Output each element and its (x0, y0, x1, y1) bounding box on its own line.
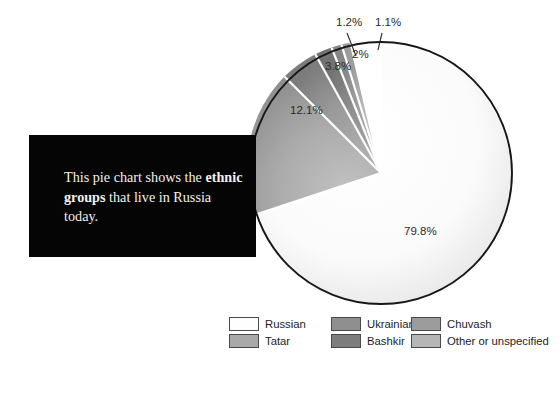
legend-label-chuvash: Chuvash (447, 318, 492, 330)
pie-label-russian: 79.8% (404, 225, 437, 237)
legend-item-tatar: Tatar (229, 334, 331, 348)
legend-item-other: Other or unspecified (411, 334, 539, 348)
caption-box: This pie chart shows the ethnic groups t… (29, 135, 256, 257)
legend-label-ukrainian: Ukrainian (367, 318, 415, 330)
caption-line-1: This pie chart shows the (64, 169, 202, 185)
legend-item-ukrainian: Ukrainian (331, 317, 411, 331)
pie-label-tatar: 12.1% (290, 104, 323, 116)
legend-row: Tatar Bashkir Other or unspecified (229, 334, 539, 348)
pie-label-ukrainian: 3.8% (325, 60, 351, 72)
legend-label-bashkir: Bashkir (367, 335, 405, 347)
legend-label-tatar: Tatar (265, 335, 290, 347)
pie-label-chuvash: 1.2% (336, 16, 362, 28)
pie-chart-figure: 79.8% 12.1% 3.8% 2% 1.2% 1.1% This pie c… (0, 0, 560, 413)
caption-text: This pie chart shows the ethnic groups t… (64, 168, 244, 227)
legend-swatch-russian (229, 317, 259, 331)
pie-label-bashkir: 2% (352, 48, 369, 60)
legend-swatch-tatar (229, 334, 259, 348)
legend-swatch-bashkir (331, 334, 361, 348)
legend-label-other: Other or unspecified (447, 335, 549, 347)
legend-item-bashkir: Bashkir (331, 334, 411, 348)
legend-label-russian: Russian (265, 318, 306, 330)
caption-line-2-rest: that live (106, 189, 156, 205)
legend-item-russian: Russian (229, 317, 331, 331)
legend-swatch-ukrainian (331, 317, 361, 331)
legend-swatch-chuvash (411, 317, 441, 331)
pie-label-other: 1.1% (375, 16, 401, 28)
legend-row: Russian Ukrainian Chuvash (229, 317, 539, 331)
legend-swatch-other (411, 334, 441, 348)
legend-item-chuvash: Chuvash (411, 317, 539, 331)
legend: Russian Ukrainian Chuvash Tatar Bashkir (229, 317, 539, 351)
